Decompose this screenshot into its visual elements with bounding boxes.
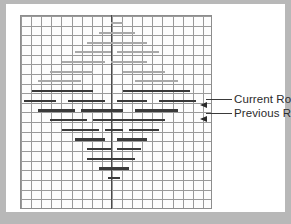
bar-segment xyxy=(50,119,86,121)
bar-segment xyxy=(99,167,129,169)
bar-segment xyxy=(87,148,111,150)
bar-segment xyxy=(24,100,56,102)
bar-segment xyxy=(117,51,159,53)
center-axis-line xyxy=(111,15,112,209)
bar-segment xyxy=(129,119,165,121)
bar-segment xyxy=(117,100,147,102)
bar-segment xyxy=(108,177,120,179)
annotation-label-previous-row: Previous Row xyxy=(234,106,291,121)
bar-segment xyxy=(123,90,190,92)
leader-line xyxy=(206,99,232,100)
bar-segment xyxy=(87,42,148,44)
bar-segment xyxy=(129,129,159,131)
bar-segment xyxy=(87,158,135,160)
arrow-left-icon xyxy=(200,116,207,122)
figure-canvas: Current Row Previous Row xyxy=(0,0,291,224)
bar-segment xyxy=(75,138,105,140)
bar-segment xyxy=(93,119,129,121)
bar-segment xyxy=(117,138,147,140)
bar-segment xyxy=(105,129,123,131)
bar-segment xyxy=(135,109,177,111)
bar-segment xyxy=(117,148,141,150)
annotation-previous-row: Previous Row xyxy=(206,106,291,122)
bar-segment xyxy=(68,100,104,102)
bar-segment xyxy=(62,129,98,131)
bar-segment xyxy=(38,109,74,111)
annotation-group: Current Row Previous Row xyxy=(206,92,291,128)
bar-segment xyxy=(111,61,147,63)
grid-diagram xyxy=(20,15,212,209)
bar-segment xyxy=(62,61,104,63)
leader-line xyxy=(206,113,232,114)
bar-segment xyxy=(75,51,111,53)
bar-segment xyxy=(111,22,123,24)
bar-segment xyxy=(123,71,165,73)
bar-segment xyxy=(50,71,92,73)
bar-segment xyxy=(38,80,80,82)
bar-segment xyxy=(159,100,195,102)
figure-card: Current Row Previous Row xyxy=(6,4,285,212)
bar-segment xyxy=(99,32,135,34)
bar-segment xyxy=(81,109,123,111)
bar-segment xyxy=(32,90,93,92)
bar-segment xyxy=(135,80,177,82)
grid-background xyxy=(20,15,212,209)
annotation-label-current-row: Current Row xyxy=(234,92,291,107)
